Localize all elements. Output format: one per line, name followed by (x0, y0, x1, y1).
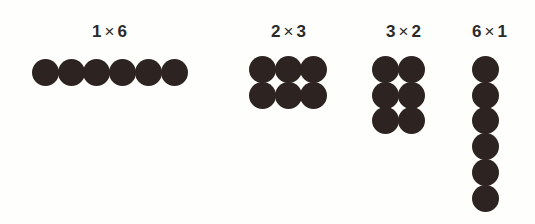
dot (372, 107, 399, 134)
dot (135, 59, 162, 86)
label-1x6: 1×6 (92, 22, 128, 42)
label-6x1: 6×1 (472, 22, 508, 42)
label-cols: 2 (411, 22, 421, 41)
dot (58, 59, 85, 86)
label-cols: 3 (296, 22, 306, 41)
times-symbol: × (485, 22, 496, 41)
dot (249, 56, 276, 83)
label-3x2: 3×2 (386, 22, 422, 42)
dot (398, 56, 425, 83)
times-symbol: × (399, 22, 410, 41)
times-symbol: × (105, 22, 116, 41)
dot (472, 82, 499, 109)
dot (472, 107, 499, 134)
dot (372, 82, 399, 109)
dot (32, 59, 59, 86)
label-rows: 2 (271, 22, 281, 41)
dot (83, 59, 110, 86)
dot (161, 59, 188, 86)
times-symbol: × (284, 22, 295, 41)
dot (275, 56, 302, 83)
dot (249, 82, 276, 109)
dot (300, 56, 327, 83)
dot (472, 133, 499, 160)
dot (109, 59, 136, 86)
label-cols: 1 (497, 22, 507, 41)
label-2x3: 2×3 (271, 22, 307, 42)
label-rows: 6 (472, 22, 482, 41)
label-cols: 6 (117, 22, 127, 41)
dot (398, 107, 425, 134)
dot (472, 185, 499, 212)
dot (472, 159, 499, 186)
dot (472, 56, 499, 83)
dot (275, 82, 302, 109)
dot (300, 82, 327, 109)
dot (398, 82, 425, 109)
label-rows: 1 (92, 22, 102, 41)
label-rows: 3 (386, 22, 396, 41)
dot (372, 56, 399, 83)
arrays-figure: 1×6 2×3 3×2 6×1 (0, 0, 535, 224)
